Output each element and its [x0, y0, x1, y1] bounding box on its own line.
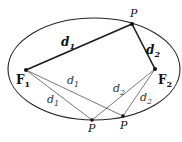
ellipse-focal-diagram: P d1 d2 F1 F2 d1 d1 d2 d2 P P	[0, 0, 182, 142]
label-light-d1-a-sub: 1	[74, 80, 79, 89]
label-light-d2-b: d2	[140, 91, 152, 106]
segment-f1-bottom-p1	[26, 70, 92, 120]
label-light-d1-b-main: d	[47, 93, 54, 106]
label-f2-sub: 2	[167, 79, 173, 89]
focus-f2	[153, 67, 157, 71]
label-f1: F1	[16, 73, 30, 89]
label-bottom-p1: P	[87, 122, 96, 135]
label-bold-d1: d1	[61, 35, 75, 51]
label-light-d2-b-main: d	[140, 91, 147, 104]
label-light-d2-a: d2	[113, 82, 125, 97]
label-bold-d2-sub: 2	[153, 49, 160, 59]
label-bottom-p2: P	[119, 119, 128, 132]
label-light-d1-a-main: d	[67, 74, 74, 87]
label-f2: F2	[158, 73, 172, 89]
focus-f1	[24, 68, 28, 72]
label-top-p: P	[129, 7, 138, 20]
label-light-d1-b-sub: 1	[54, 99, 59, 108]
label-light-d2-a-sub: 2	[119, 88, 125, 97]
segment-f1-top-p	[26, 24, 132, 70]
segment-f2-bottom-p2	[123, 69, 155, 116]
bottom-point-p2	[121, 114, 125, 118]
label-light-d1-a: d1	[67, 74, 79, 89]
top-point-p	[130, 22, 134, 26]
label-f1-sub: 1	[25, 79, 31, 89]
label-bold-d2: d2	[146, 43, 160, 59]
label-light-d1-b: d1	[47, 93, 59, 108]
label-light-d2-a-main: d	[113, 82, 120, 95]
label-bold-d1-sub: 1	[69, 41, 75, 51]
label-light-d2-b-sub: 2	[146, 97, 152, 106]
